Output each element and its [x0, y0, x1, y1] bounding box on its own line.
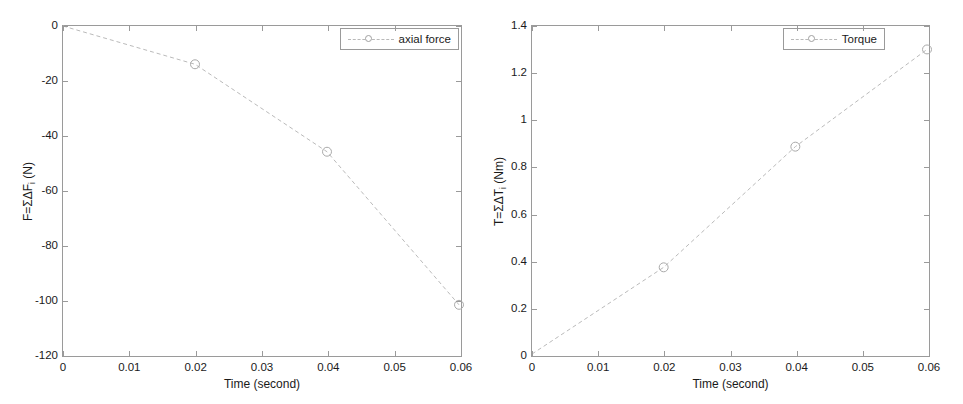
- legend-circle-marker-icon: [808, 35, 815, 42]
- axial-force-series-svg: [63, 26, 461, 356]
- data-point-marker: [191, 60, 200, 69]
- y-tick-label: -20: [20, 75, 58, 87]
- x-tick-label: 0.06: [450, 362, 472, 374]
- y-axis-title-unit: (N): [21, 162, 35, 182]
- y-tick-mark: [63, 301, 68, 302]
- x-tick-label: 0.04: [785, 362, 807, 374]
- axial-force-x-axis-title: Time (second): [224, 378, 300, 390]
- x-tick-mark: [731, 351, 732, 356]
- y-tick-mark: [456, 246, 461, 247]
- x-tick-mark: [395, 26, 396, 31]
- legend-circle-marker-icon: [365, 35, 372, 42]
- x-tick-mark: [863, 26, 864, 31]
- y-tick-mark: [532, 120, 537, 121]
- y-tick-mark: [456, 301, 461, 302]
- y-tick-label: 0: [489, 350, 527, 362]
- y-axis-title-subscript: i: [498, 187, 508, 189]
- torque-series-svg: [532, 26, 929, 356]
- axial-force-legend[interactable]: axial force: [340, 28, 459, 50]
- x-tick-mark: [731, 26, 732, 31]
- x-tick-mark: [196, 26, 197, 31]
- x-tick-mark: [461, 26, 462, 31]
- torque-legend[interactable]: Torque: [783, 28, 885, 50]
- y-tick-mark: [924, 26, 929, 27]
- x-tick-mark: [328, 26, 329, 31]
- x-tick-label: 0.01: [118, 362, 140, 374]
- figure-canvas: axial force 00.010.020.030.040.050.060-2…: [0, 0, 963, 404]
- x-tick-mark: [863, 351, 864, 356]
- data-line-axial-force: [63, 26, 459, 305]
- x-tick-mark: [395, 351, 396, 356]
- y-tick-mark: [456, 356, 461, 357]
- x-tick-mark: [129, 26, 130, 31]
- y-tick-mark: [456, 81, 461, 82]
- y-tick-mark: [456, 26, 461, 27]
- y-axis-title-subscript: i: [27, 182, 37, 184]
- x-tick-label: 0.05: [383, 362, 405, 374]
- axial-force-y-axis-title: F=ΣΔFi (N): [22, 162, 34, 221]
- x-tick-mark: [797, 351, 798, 356]
- y-axis-title-main: F=ΣΔF: [21, 183, 35, 220]
- x-tick-mark: [929, 351, 930, 356]
- y-tick-mark: [924, 262, 929, 263]
- y-tick-mark: [63, 246, 68, 247]
- y-tick-label: 1: [489, 115, 527, 127]
- torque-x-axis-title: Time (second): [692, 378, 768, 390]
- x-tick-mark: [797, 26, 798, 31]
- y-tick-label: -120: [20, 350, 58, 362]
- x-tick-mark: [262, 351, 263, 356]
- y-tick-mark: [532, 215, 537, 216]
- y-tick-label: 1.4: [489, 20, 527, 32]
- y-axis-title-main: T=ΣΔT: [492, 188, 506, 225]
- x-tick-label: 0: [60, 362, 66, 374]
- y-tick-mark: [924, 356, 929, 357]
- x-tick-label: 0.01: [587, 362, 609, 374]
- y-tick-label: -80: [20, 240, 58, 252]
- y-tick-mark: [63, 26, 68, 27]
- y-tick-mark: [532, 167, 537, 168]
- y-tick-mark: [456, 136, 461, 137]
- legend-label-axial-force: axial force: [399, 33, 451, 45]
- y-tick-mark: [924, 215, 929, 216]
- x-tick-mark: [129, 351, 130, 356]
- x-tick-mark: [664, 26, 665, 31]
- torque-y-axis-title: T=ΣΔTi (Nm): [493, 157, 505, 226]
- x-tick-label: 0.06: [918, 362, 940, 374]
- y-tick-mark: [924, 120, 929, 121]
- y-tick-mark: [63, 81, 68, 82]
- y-tick-label: 0.2: [489, 303, 527, 315]
- y-tick-mark: [532, 26, 537, 27]
- torque-panel: Torque 00.010.020.030.040.050.0600.20.40…: [481, 0, 963, 404]
- x-tick-label: 0: [529, 362, 535, 374]
- x-tick-mark: [664, 351, 665, 356]
- data-line-torque: [532, 49, 927, 354]
- x-tick-mark: [598, 351, 599, 356]
- legend-sample-torque: [791, 34, 837, 45]
- legend-sample-axial-force: [348, 34, 394, 45]
- y-tick-label: 0.4: [489, 256, 527, 268]
- y-tick-mark: [456, 191, 461, 192]
- data-point-marker: [659, 263, 668, 272]
- x-tick-label: 0.02: [653, 362, 675, 374]
- y-tick-mark: [924, 167, 929, 168]
- y-tick-mark: [532, 73, 537, 74]
- y-axis-title-unit: (Nm): [492, 157, 506, 187]
- y-tick-mark: [532, 262, 537, 263]
- y-tick-mark: [532, 309, 537, 310]
- x-tick-mark: [598, 26, 599, 31]
- x-tick-mark: [929, 26, 930, 31]
- x-tick-label: 0.03: [719, 362, 741, 374]
- torque-plot-area: Torque: [531, 25, 930, 357]
- x-tick-mark: [196, 351, 197, 356]
- x-tick-label: 0.02: [184, 362, 206, 374]
- y-tick-mark: [63, 136, 68, 137]
- x-tick-mark: [328, 351, 329, 356]
- y-tick-label: -100: [20, 295, 58, 307]
- y-tick-mark: [63, 191, 68, 192]
- y-tick-mark: [924, 309, 929, 310]
- y-tick-mark: [63, 356, 68, 357]
- x-tick-label: 0.03: [251, 362, 273, 374]
- y-tick-label: 1.2: [489, 67, 527, 79]
- y-tick-mark: [532, 356, 537, 357]
- y-tick-mark: [924, 73, 929, 74]
